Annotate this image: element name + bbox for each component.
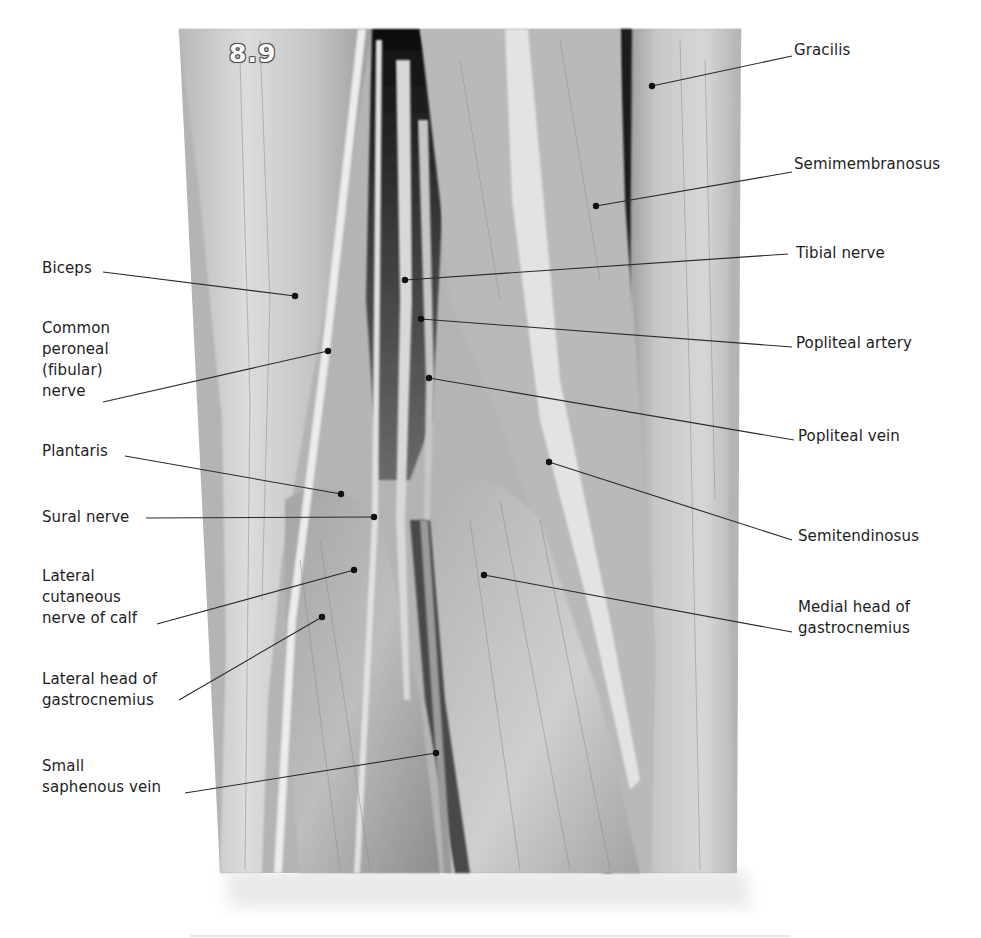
label-gracilis: Gracilis [794,40,850,61]
anatomy-figure: 8.9 Biceps Common peroneal (fibular) ner… [0,0,981,938]
label-popliteal-vein: Popliteal vein [798,426,900,447]
label-lateral-head-of-gastrocnemius: Lateral head of gastrocnemius [42,669,157,711]
label-popliteal-artery: Popliteal artery [796,333,912,354]
label-lateral-cutaneous-nerve-of-calf: Lateral cutaneous nerve of calf [42,566,137,629]
label-plantaris: Plantaris [42,441,108,462]
label-semitendinosus: Semitendinosus [798,526,919,547]
label-medial-head-of-gastrocnemius: Medial head of gastrocnemius [798,597,910,639]
page-divider [190,935,790,937]
label-tibial-nerve: Tibial nerve [796,243,885,264]
label-biceps: Biceps [42,258,92,279]
label-semimembranosus: Semimembranosus [794,154,940,175]
label-sural-nerve: Sural nerve [42,507,129,528]
figure-number: 8.9 [229,39,276,68]
label-small-saphenous-vein: Small saphenous vein [42,756,161,798]
label-common-peroneal-nerve: Common peroneal (fibular) nerve [42,318,110,402]
